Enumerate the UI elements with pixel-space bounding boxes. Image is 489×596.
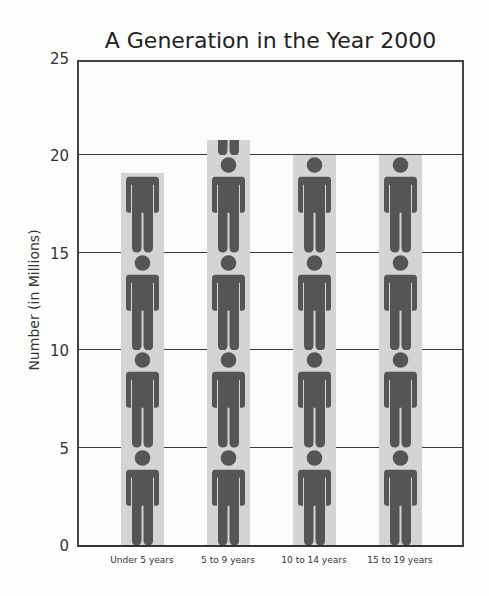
- person-icon: [121, 448, 164, 545]
- plot-area: [77, 60, 464, 547]
- person-icon: [207, 155, 250, 252]
- person-icon: [379, 253, 422, 350]
- person-icon: [293, 155, 336, 252]
- x-tick-label: 15 to 19 years: [367, 555, 432, 565]
- person-icon: [293, 253, 336, 350]
- x-tick-label: 5 to 9 years: [201, 555, 255, 565]
- y-tick-label: 10: [50, 342, 69, 360]
- x-tick-label: Under 5 years: [110, 555, 173, 565]
- chart-title: A Generation in the Year 2000: [0, 28, 489, 53]
- person-icon: [121, 173, 164, 253]
- person-icon: [379, 155, 422, 252]
- y-tick-label: 15: [50, 245, 69, 263]
- x-tick-label: 10 to 14 years: [281, 555, 346, 565]
- person-icon: [121, 253, 164, 350]
- y-tick-label: 5: [59, 440, 69, 458]
- person-icon: [379, 448, 422, 545]
- pictograph-bar: [379, 155, 422, 545]
- person-icon: [121, 350, 164, 447]
- y-axis-label: Number (in Millions): [26, 229, 42, 370]
- pictograph-bar: [121, 173, 164, 545]
- pictograph-bar: [207, 140, 250, 545]
- y-tick-label: 25: [50, 50, 69, 68]
- y-tick-label: 0: [59, 537, 69, 555]
- person-icon: [207, 140, 250, 156]
- pictograph-bar: [293, 155, 336, 545]
- person-icon: [293, 350, 336, 447]
- person-icon: [207, 253, 250, 350]
- person-icon: [207, 350, 250, 447]
- y-tick-label: 20: [50, 147, 69, 165]
- person-icon: [293, 448, 336, 545]
- person-icon: [379, 350, 422, 447]
- person-icon: [207, 448, 250, 545]
